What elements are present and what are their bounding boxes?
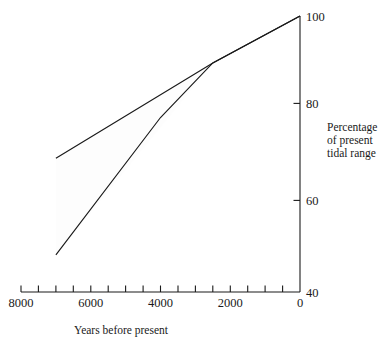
- y-tick-label: 80: [306, 97, 319, 111]
- x-tick-label: 0: [297, 296, 303, 310]
- x-tick-labels: 8000 6000 4000 2000 0: [9, 296, 304, 310]
- x-tick-label: 4000: [148, 296, 173, 310]
- tidal-range-chart: 8000 6000 4000 2000 0 100 80 60 40 Perce…: [0, 0, 380, 351]
- y-tick-label: 60: [306, 194, 319, 208]
- uncertainty-band: [56, 63, 213, 255]
- y-tick-label: 100: [306, 10, 325, 24]
- y-axis-title: Percentage of present tidal range: [327, 121, 377, 160]
- x-axis-title: Years before present: [74, 324, 169, 337]
- x-axis-ticks: [21, 286, 283, 293]
- y-axis-title-line-3: tidal range: [327, 147, 376, 160]
- y-axis-ticks: [294, 103, 301, 200]
- y-axis-title-line-1: Percentage: [327, 121, 377, 134]
- y-axis-title-line-2: of present: [327, 134, 373, 147]
- y-tick-labels: 100 80 60 40: [306, 10, 325, 300]
- x-tick-label: 8000: [9, 296, 34, 310]
- chart-canvas: 8000 6000 4000 2000 0 100 80 60 40 Perce…: [0, 0, 380, 351]
- y-tick-label: 40: [306, 286, 319, 300]
- x-tick-label: 6000: [78, 296, 103, 310]
- x-tick-label: 2000: [218, 296, 243, 310]
